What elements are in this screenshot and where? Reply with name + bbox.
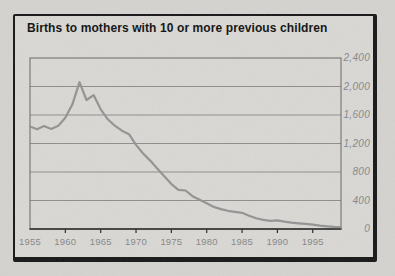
screen: Births to mothers with 10 or more previo… — [0, 0, 395, 276]
line-chart-plot — [0, 0, 395, 276]
data-series-line — [30, 82, 341, 227]
